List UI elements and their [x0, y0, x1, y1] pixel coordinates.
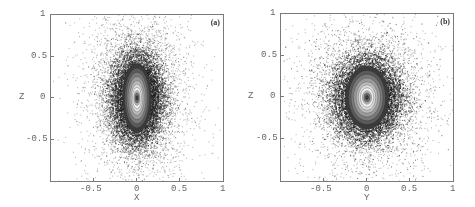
xtick-mark: [366, 178, 367, 181]
ytick-mark: [281, 138, 284, 139]
ytick-label: 0: [40, 93, 45, 102]
ytick-mark: [51, 139, 54, 140]
ytick-label: 0.5: [261, 51, 277, 60]
xtick-label: 0.5: [171, 185, 187, 194]
panel-tag-b: (b): [440, 17, 450, 26]
ytick-label: 0.5: [31, 52, 47, 61]
xtick-mark: [323, 178, 324, 181]
panel-tag-a: (a): [211, 18, 220, 27]
y-axis-label-a: Z: [19, 93, 24, 102]
xtick-mark: [93, 178, 94, 181]
xtick-label: 1: [450, 185, 455, 194]
ytick-label: 1: [40, 10, 45, 19]
ytick-mark: [281, 96, 284, 97]
plot-area-a: (a): [50, 14, 224, 182]
xtick-mark: [409, 178, 410, 181]
scatter-canvas-b: [281, 14, 453, 181]
xtick-mark: [136, 178, 137, 181]
plot-area-b: (b): [280, 13, 454, 182]
xtick-label: 0.5: [401, 185, 417, 194]
xtick-label: -0.5: [310, 185, 332, 194]
ytick-mark: [51, 56, 54, 57]
ytick-mark: [281, 55, 284, 56]
ytick-label: 0: [270, 92, 275, 101]
xtick-mark: [179, 178, 180, 181]
x-axis-label-b: Y: [364, 194, 369, 203]
xtick-label: -0.5: [80, 185, 102, 194]
xtick-label: 1: [220, 185, 225, 194]
ytick-label: -0.5: [26, 135, 48, 144]
scatter-canvas-a: [51, 15, 223, 181]
ytick-label: 1: [270, 9, 275, 18]
y-axis-label-b: Z: [248, 92, 253, 101]
x-axis-label-a: X: [134, 194, 139, 203]
ytick-mark: [51, 97, 54, 98]
panel-a: (a) 1 0.5 0 -0.5 Z -0.5 0 0.5 1 X: [0, 0, 237, 207]
ytick-label: -0.5: [256, 134, 278, 143]
panel-b: (b) 1 0.5 0 -0.5 Z -0.5 0 0.5 1 Y: [237, 0, 474, 207]
